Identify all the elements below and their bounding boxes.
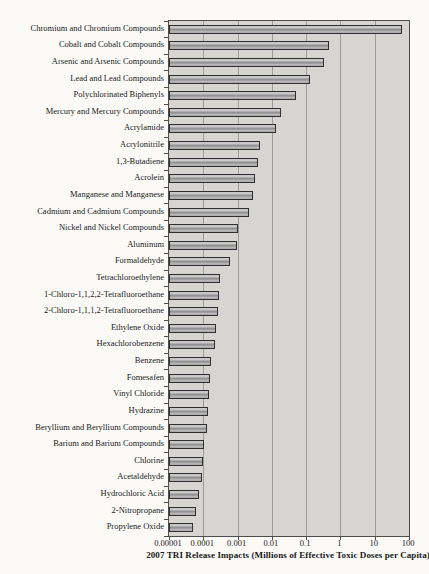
category-label: Hydrochloric Acid	[101, 488, 165, 499]
category-label: Acrylamide	[124, 122, 164, 133]
category-axis-tick	[164, 536, 168, 537]
bar	[169, 440, 204, 449]
category-axis-tick	[164, 403, 168, 404]
bar	[169, 424, 207, 433]
bar	[169, 457, 203, 466]
bar	[169, 357, 211, 366]
bar	[169, 490, 199, 499]
category-axis-tick	[164, 286, 168, 287]
bar	[169, 124, 276, 133]
x-axis-tick-label: 10	[369, 538, 378, 548]
category-axis-tick	[164, 187, 168, 188]
category-label: Acrolein	[134, 172, 164, 183]
bar	[169, 307, 218, 316]
category-axis-tick	[164, 21, 168, 22]
category-axis-tick	[164, 502, 168, 503]
category-label: Polychlorinated Biphenyls	[74, 89, 164, 100]
decade-gridline	[375, 21, 376, 536]
bar	[169, 374, 210, 383]
bar	[169, 75, 310, 84]
x-axis-tick-label: 0.0001	[191, 538, 214, 548]
category-label: Nickel and Nickel Compounds	[59, 222, 164, 233]
x-axis-tick-label: 0.001	[227, 538, 246, 548]
category-axis-tick	[164, 54, 168, 55]
category-label: Formaldehyde	[115, 255, 164, 266]
category-axis-tick	[164, 469, 168, 470]
category-label: Propylene Oxide	[107, 521, 164, 532]
category-label: Beryllium and Beryllium Compounds	[35, 422, 164, 433]
category-label: Fomesafen	[127, 372, 164, 383]
category-axis-tick	[164, 419, 168, 420]
category-axis-tick	[164, 486, 168, 487]
category-label: Aluminum	[127, 239, 164, 250]
category-axis-tick	[164, 386, 168, 387]
category-axis-tick	[164, 137, 168, 138]
bar	[169, 208, 249, 217]
category-label: Ethylene Oxide	[111, 322, 164, 333]
category-label: Cadmium and Cadmium Compounds	[37, 206, 164, 217]
plot-area	[168, 20, 410, 537]
category-axis-tick	[164, 120, 168, 121]
category-label: Chromium and Chromium Compounds	[31, 23, 164, 34]
category-label: Tetrachloroethylene	[96, 272, 164, 283]
category-axis-tick	[164, 170, 168, 171]
bar	[169, 224, 238, 233]
bar	[169, 141, 260, 150]
bar	[169, 191, 253, 200]
category-label: Benzene	[135, 355, 164, 366]
category-label: Hexachlorobenzene	[97, 338, 165, 349]
bar	[169, 507, 196, 516]
category-axis-tick	[164, 220, 168, 221]
decade-gridline	[340, 21, 341, 536]
bar	[169, 108, 281, 117]
x-axis-tick-label: 0.00001	[154, 538, 182, 548]
category-label: Hydrazine	[129, 405, 164, 416]
bar	[169, 340, 215, 349]
category-axis-tick	[164, 320, 168, 321]
category-label: Cobalt and Cobalt Compounds	[59, 39, 164, 50]
category-label: Acrylonitrile	[120, 139, 164, 150]
category-axis-tick	[164, 336, 168, 337]
bar	[169, 274, 220, 283]
bar	[169, 241, 237, 250]
category-axis-tick	[164, 87, 168, 88]
bar	[169, 41, 329, 50]
category-label: 1,3-Butadiene	[116, 156, 164, 167]
category-label: Lead and Lead Compounds	[70, 73, 164, 84]
bar	[169, 257, 230, 266]
category-label: 2-Nitropropane	[112, 505, 164, 516]
category-label: Chlorine	[134, 455, 164, 466]
category-label: 1-Chloro-1,1,2,2-Tetrafluoroethane	[44, 289, 164, 300]
category-axis-tick	[164, 253, 168, 254]
x-axis-tick-label: 100	[402, 538, 415, 548]
bar	[169, 407, 208, 416]
bar	[169, 473, 202, 482]
x-axis-tick-label: 1	[337, 538, 341, 548]
category-label: Acetaldehyde	[117, 471, 164, 482]
category-label: 2-Chloro-1,1,1,2-Tetrafluoroethane	[44, 305, 164, 316]
category-label: Mercury and Mercury Compounds	[46, 106, 164, 117]
category-label: Manganese and Manganese	[70, 189, 164, 200]
bar	[169, 390, 209, 399]
category-axis-tick	[164, 519, 168, 520]
tri-release-impacts-bar-chart: Chromium and Chromium CompoundsCobalt an…	[0, 0, 429, 574]
bar	[169, 58, 324, 67]
category-axis-tick	[164, 203, 168, 204]
category-axis-tick	[164, 37, 168, 38]
category-label: Vinyl Chloride	[113, 388, 164, 399]
category-axis-tick	[164, 303, 168, 304]
category-axis-tick	[164, 436, 168, 437]
bar	[169, 324, 216, 333]
bar	[169, 291, 219, 300]
category-axis-tick	[164, 369, 168, 370]
bar	[169, 523, 193, 532]
category-axis-tick	[164, 153, 168, 154]
category-axis-tick	[164, 452, 168, 453]
category-axis-tick	[164, 270, 168, 271]
category-axis-tick	[164, 353, 168, 354]
bar	[169, 174, 255, 183]
bar	[169, 158, 258, 167]
category-axis-tick	[164, 70, 168, 71]
x-axis-tick-label: 0.01	[263, 538, 278, 548]
bar	[169, 25, 402, 34]
